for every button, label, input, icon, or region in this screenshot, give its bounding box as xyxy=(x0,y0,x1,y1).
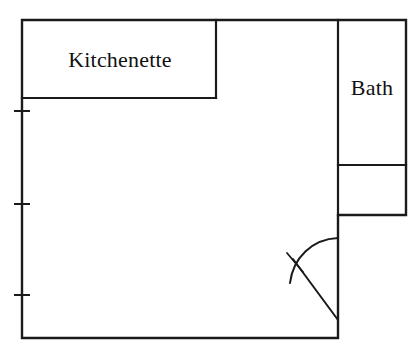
floor-plan: Kitchenette Bath xyxy=(0,0,419,359)
floor-plan-drawing xyxy=(0,0,419,359)
door-swing-arc-icon xyxy=(290,238,338,283)
room-label-kitchenette: Kitchenette xyxy=(68,47,172,73)
room-label-bath: Bath xyxy=(351,75,393,101)
